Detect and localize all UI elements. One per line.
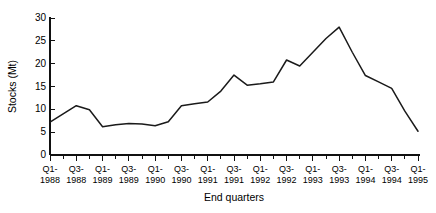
x-tick-labels: Q1-1988Q3-1988Q1-1989Q3-1989Q1-1990Q3-19… (40, 164, 428, 185)
x-tick-label-quarter: Q1- (42, 164, 57, 174)
x-tick-label-quarter: Q1- (95, 164, 110, 174)
y-axis-group: 051015202530 Stocks (Mt) (6, 12, 55, 160)
x-tick-label-quarter: Q3- (332, 164, 347, 174)
x-tick-label-year: 1992 (277, 175, 297, 185)
y-tick-label: 15 (35, 81, 47, 92)
stocks-series-line (50, 27, 418, 131)
stocks-line-chart: 051015202530 Stocks (Mt) Q1-1988Q3-1988Q… (0, 0, 436, 213)
x-axis-group: Q1-1988Q3-1988Q1-1989Q3-1989Q1-1990Q3-19… (40, 155, 428, 203)
x-tick-label-quarter: Q3- (384, 164, 399, 174)
y-tick-label: 25 (35, 35, 47, 46)
x-tick-label-year: 1988 (40, 175, 60, 185)
y-tick-label: 0 (40, 149, 46, 160)
x-tick-label-year: 1990 (171, 175, 191, 185)
x-tick-label-year: 1994 (355, 175, 375, 185)
y-tick-label: 20 (35, 58, 47, 69)
chart-canvas: 051015202530 Stocks (Mt) Q1-1988Q3-1988Q… (0, 0, 436, 213)
x-tick-label-year: 1994 (382, 175, 402, 185)
x-tick-label-year: 1991 (224, 175, 244, 185)
x-tick-marks (50, 155, 418, 161)
y-tick-label: 10 (35, 103, 47, 114)
x-tick-label-year: 1988 (66, 175, 86, 185)
y-tick-marks (50, 18, 55, 155)
x-tick-label-quarter: Q3- (69, 164, 84, 174)
x-tick-label-quarter: Q3- (279, 164, 294, 174)
y-tick-label: 30 (35, 12, 47, 23)
x-tick-label-quarter: Q1- (253, 164, 268, 174)
x-tick-label-year: 1991 (198, 175, 218, 185)
x-tick-label-year: 1989 (93, 175, 113, 185)
x-tick-label-quarter: Q1- (358, 164, 373, 174)
x-tick-label-year: 1990 (145, 175, 165, 185)
x-tick-label-quarter: Q1- (200, 164, 215, 174)
data-series-group (50, 27, 418, 131)
y-tick-labels: 051015202530 (35, 12, 47, 160)
x-tick-label-year: 1993 (329, 175, 349, 185)
x-tick-label-year: 1993 (303, 175, 323, 185)
x-tick-label-quarter: Q1- (410, 164, 425, 174)
x-tick-label-year: 1989 (119, 175, 139, 185)
y-axis-title: Stocks (Mt) (6, 60, 18, 113)
x-tick-label-year: 1992 (250, 175, 270, 185)
x-tick-label-quarter: Q1- (305, 164, 320, 174)
y-tick-label: 5 (40, 126, 46, 137)
x-tick-label-quarter: Q3- (174, 164, 189, 174)
x-tick-label-year: 1995 (408, 175, 428, 185)
x-tick-label-quarter: Q3- (121, 164, 136, 174)
x-tick-label-quarter: Q3- (226, 164, 241, 174)
x-axis-title: End quarters (204, 191, 264, 203)
x-tick-label-quarter: Q1- (148, 164, 163, 174)
